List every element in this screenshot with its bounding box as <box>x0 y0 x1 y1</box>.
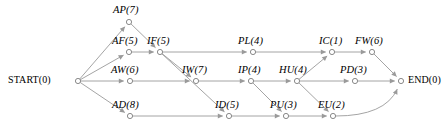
node-ap[interactable] <box>126 19 131 24</box>
node-hu[interactable] <box>294 78 299 83</box>
node-af[interactable] <box>126 49 131 54</box>
node-label-ic: IC(1) <box>319 36 342 47</box>
arrowhead-hu-to-pd-icon <box>344 79 349 84</box>
node-label-id: ID(5) <box>215 100 239 111</box>
node-label-hu: HU(4) <box>279 65 307 76</box>
arrowhead-ad-to-id-icon <box>218 114 223 119</box>
node-ip[interactable] <box>248 78 253 83</box>
node-label-if: IF(5) <box>147 36 170 47</box>
node-label-af: AF(5) <box>112 36 138 47</box>
node-start[interactable] <box>75 78 80 83</box>
arrowhead-start-to-aw-icon <box>119 79 124 84</box>
node-label-eu: EU(2) <box>318 100 345 111</box>
node-label-start: START(0) <box>8 75 51 85</box>
node-end[interactable] <box>398 78 403 83</box>
node-label-aw: AW(6) <box>111 65 139 76</box>
arrowhead-pl-to-ic-icon <box>321 50 326 55</box>
arrowhead-pu-to-eu-icon <box>322 114 327 119</box>
node-label-ad: AD(8) <box>112 100 139 111</box>
node-label-pl: PL(4) <box>238 36 263 47</box>
node-pd[interactable] <box>352 78 357 83</box>
arrowhead-id-to-pu-icon <box>275 114 280 119</box>
node-label-iw: IW(7) <box>182 65 207 76</box>
node-fw[interactable] <box>369 49 374 54</box>
node-label-end: END(0) <box>408 75 441 85</box>
node-label-ip: IP(4) <box>238 65 261 76</box>
node-aw[interactable] <box>127 78 132 83</box>
arrowhead-ic-to-fw-icon <box>361 50 366 55</box>
arrowhead-iw-to-ip-icon <box>240 79 245 84</box>
node-label-fw: FW(6) <box>355 36 383 47</box>
node-ic[interactable] <box>329 49 334 54</box>
activity-network-diagram: START(0)AP(7)AF(5)IF(5)AW(6)AD(8)IW(7)ID… <box>0 0 448 132</box>
node-label-ap: AP(7) <box>113 5 139 16</box>
node-eu[interactable] <box>330 113 335 118</box>
arrowhead-if-to-pl-icon <box>242 50 247 55</box>
network-canvas <box>0 0 448 132</box>
arrowhead-af-to-if-icon <box>149 50 154 55</box>
edge-fw-to-end <box>374 54 397 77</box>
node-iw[interactable] <box>193 78 198 83</box>
arrowhead-ip-to-hu-icon <box>286 79 291 84</box>
node-id[interactable] <box>226 113 231 118</box>
node-label-pu: PU(3) <box>270 100 297 111</box>
node-if[interactable] <box>157 49 162 54</box>
node-ad[interactable] <box>127 113 132 118</box>
arrowhead-pd-to-end-icon <box>390 79 395 84</box>
node-pl[interactable] <box>250 49 255 54</box>
node-pu[interactable] <box>283 113 288 118</box>
node-label-pd: PD(3) <box>340 65 367 76</box>
